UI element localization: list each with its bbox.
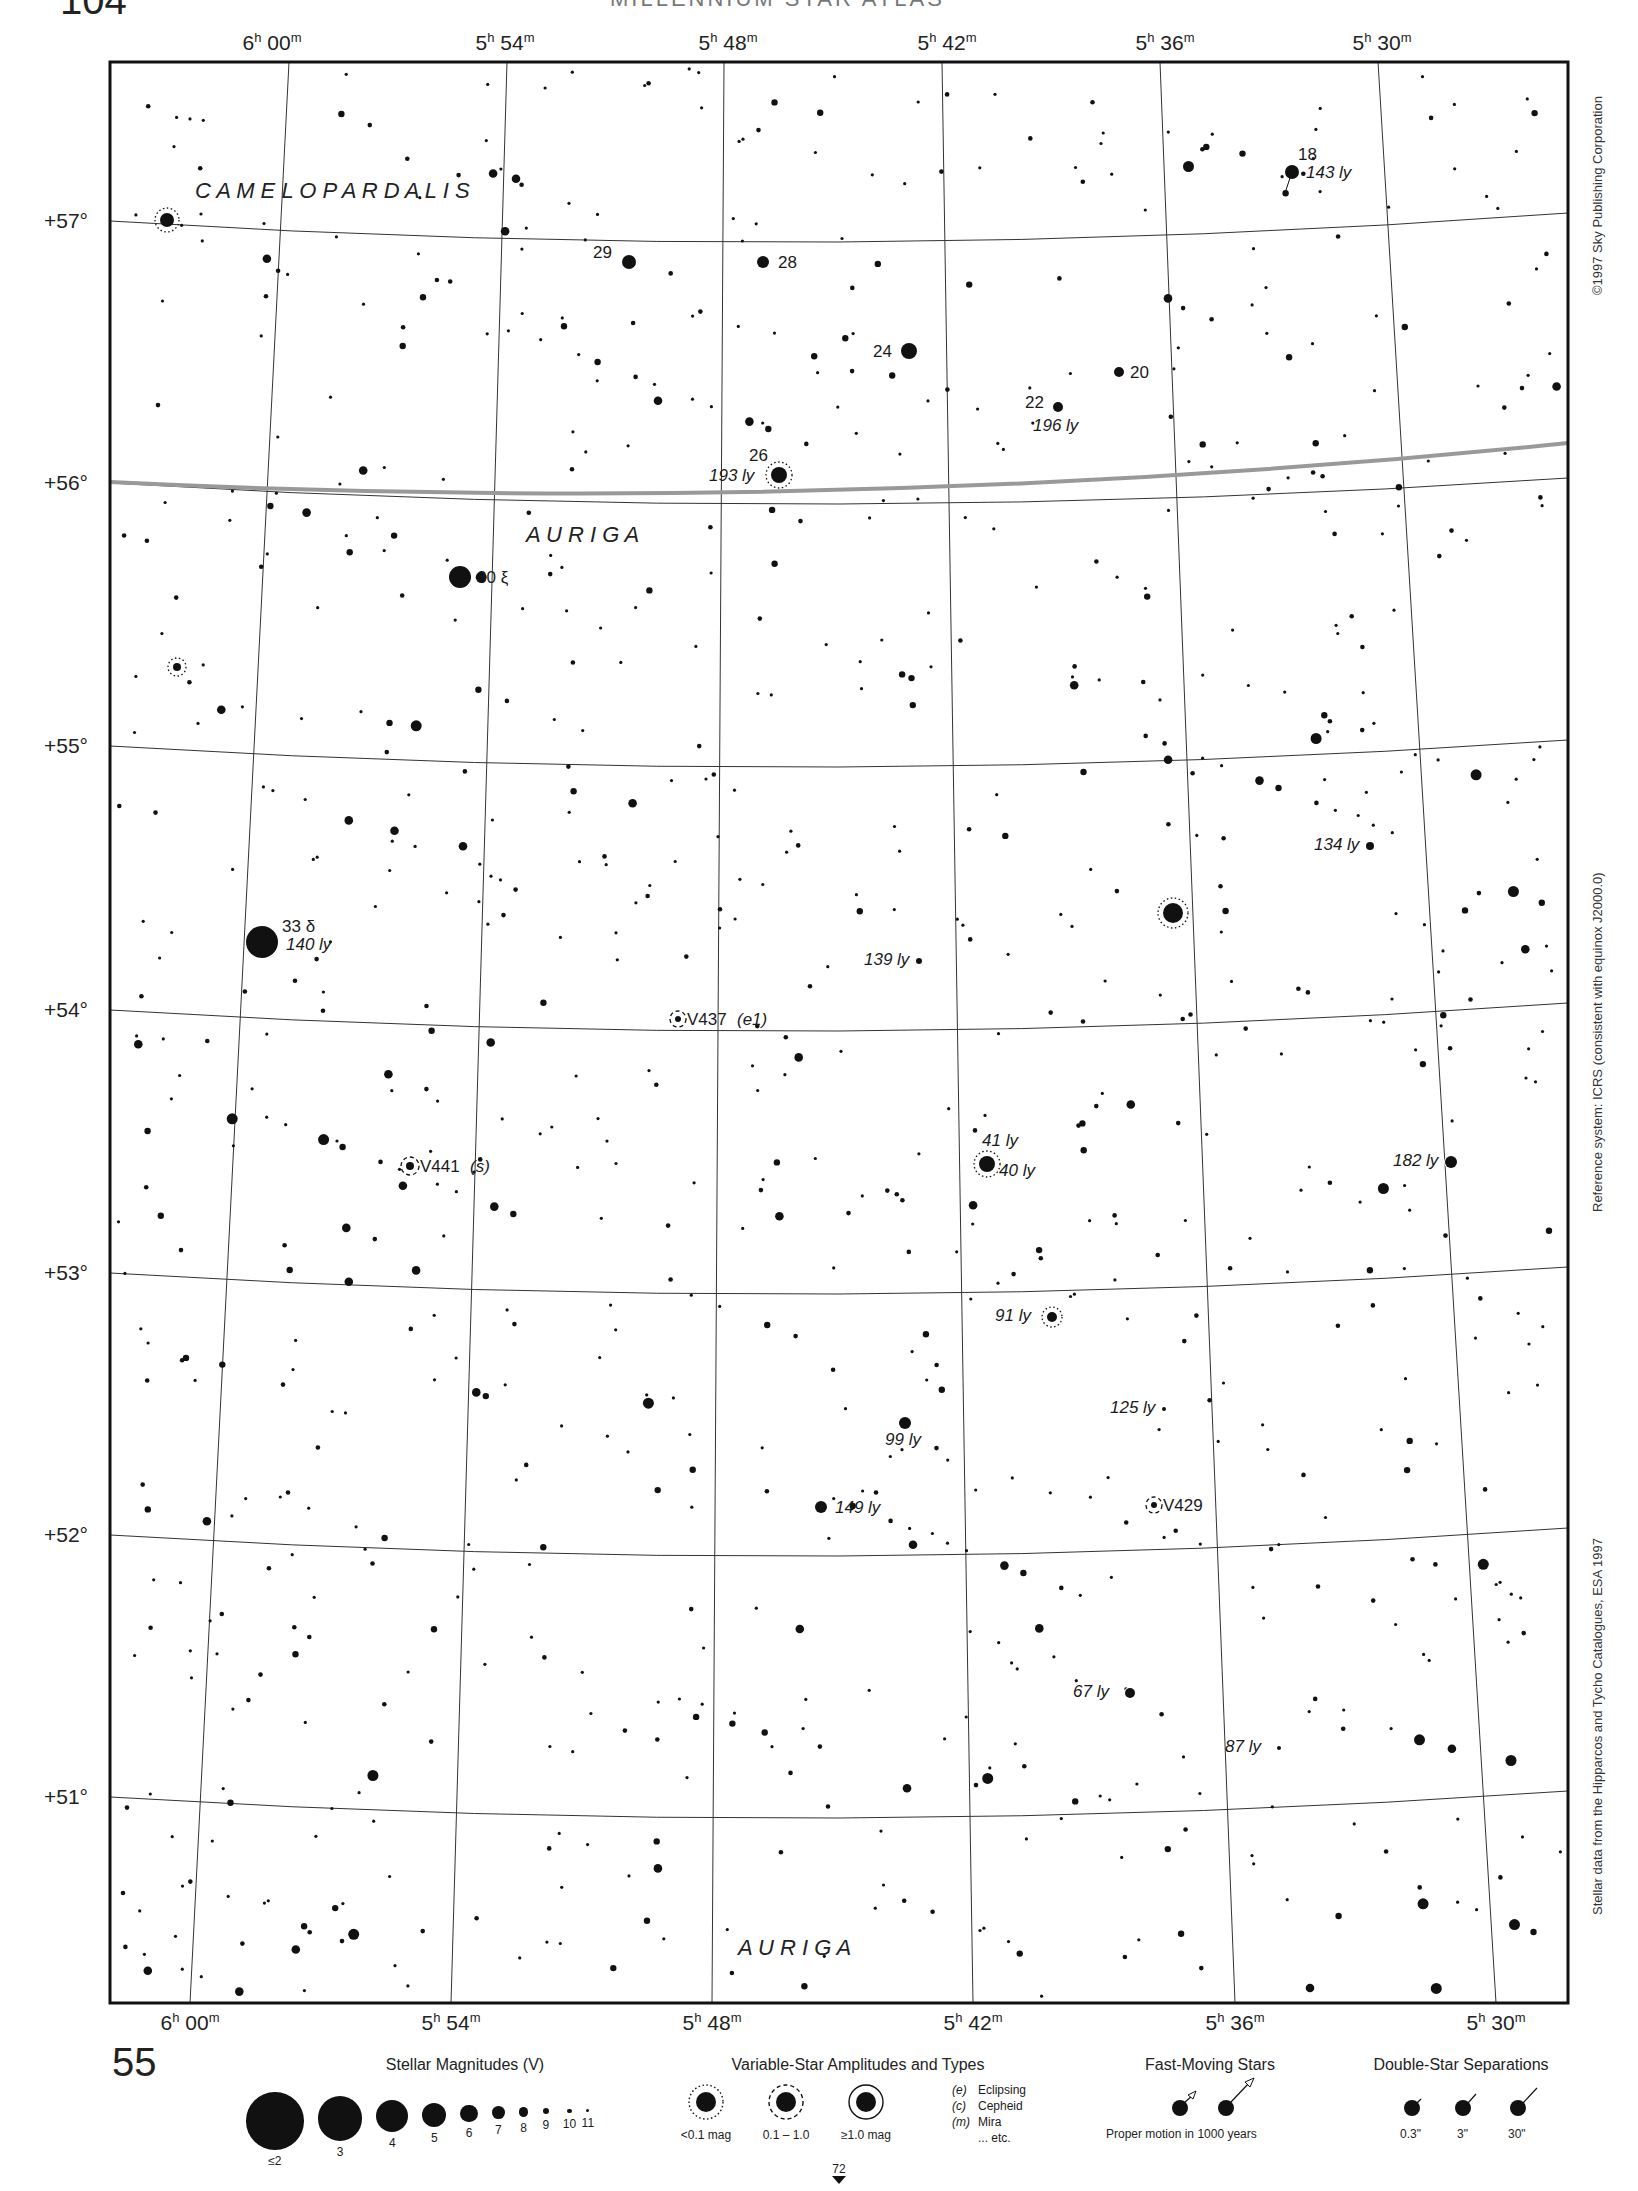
- star: [1053, 402, 1063, 412]
- distance-label: 193 ly: [709, 466, 756, 485]
- magnitude-swatch: 6: [460, 2105, 478, 2141]
- magnitude-label: 6: [466, 2126, 473, 2140]
- ra-label: 6h 00m: [161, 2010, 220, 2035]
- dec-label: +56°: [44, 471, 88, 495]
- type-etc: ... etc.: [952, 2130, 1026, 2146]
- star-label: 20: [1130, 363, 1149, 382]
- star-dot-icon: [318, 2096, 363, 2141]
- constellation-boundary: [110, 443, 1568, 493]
- dec-label: +54°: [44, 998, 88, 1022]
- star-dot-icon: [519, 2107, 529, 2117]
- star-dot-icon: [586, 2109, 589, 2112]
- data-source-note: Stellar data from the Hipparcos and Tych…: [1590, 1538, 1605, 1915]
- star-label: 22: [1025, 393, 1044, 412]
- distance-label: 67 ly: [1073, 1682, 1110, 1701]
- variable-amplitude-label: <0.1 mag: [681, 2128, 731, 2142]
- distance-label: 196 ly: [1033, 416, 1080, 435]
- dec-line: [110, 1003, 1568, 1031]
- star-chart: C A M E L O P A R D A L I SA U R I G AA …: [0, 0, 1638, 2191]
- legend-magnitudes: Stellar Magnitudes (V): [300, 2056, 630, 2074]
- star: [901, 343, 917, 359]
- dec-line: [110, 1791, 1568, 1818]
- star: [771, 467, 787, 483]
- variable-amplitude-swatch: 0.1 – 1.0: [756, 2082, 816, 2142]
- magnitude-label: 7: [495, 2123, 502, 2137]
- fast-moving-caption: Proper motion in 1000 years: [1106, 2127, 1257, 2141]
- star: [916, 958, 922, 964]
- star: [1162, 1407, 1166, 1411]
- magnitude-swatch: 5: [422, 2103, 446, 2145]
- magnitude-swatch: 8: [519, 2107, 529, 2135]
- dec-label: +51°: [44, 1785, 88, 1809]
- magnitude-label: ≤2: [268, 2154, 281, 2168]
- dec-label: +57°: [44, 209, 88, 233]
- reference-system-note: Reference system: ICRS (consistent with …: [1590, 872, 1605, 1212]
- ra-label: 5h 30m: [1467, 2010, 1526, 2035]
- star-label: 28: [778, 253, 797, 272]
- variable-types: (e)Eclipsing (c)Cepheid (m)Mira ... etc.: [952, 2082, 1026, 2146]
- legend-variables-title: Variable-Star Amplitudes and Types: [688, 2056, 1028, 2074]
- distance-label: 182 ly: [1393, 1151, 1440, 1170]
- star-label: 29: [593, 243, 612, 262]
- legend-variables: Variable-Star Amplitudes and Types: [688, 2056, 1028, 2074]
- star: [622, 255, 636, 269]
- ra-line: [1378, 62, 1496, 2003]
- distance-label: 91 ly: [995, 1306, 1032, 1325]
- dec-line: [110, 1528, 1568, 1556]
- magnitude-swatch: 3: [318, 2096, 363, 2159]
- star-dot-icon: [460, 2105, 478, 2123]
- dec-label: +55°: [44, 734, 88, 758]
- down-arrow-icon: [832, 2176, 846, 2184]
- star: [1151, 1502, 1157, 1508]
- legend-magnitudes-title: Stellar Magnitudes (V): [300, 2056, 630, 2074]
- dec-line: [110, 1267, 1568, 1294]
- star: [757, 256, 769, 268]
- star-dot-icon: [422, 2103, 446, 2127]
- star-dot-icon: [492, 2106, 505, 2119]
- distance-label: 139 ly: [864, 950, 911, 969]
- magnitude-label: 8: [520, 2121, 527, 2135]
- star-label: 30 ξ: [477, 568, 509, 587]
- magnitude-label: 4: [389, 2136, 396, 2150]
- next-chart-link[interactable]: 72: [826, 2162, 852, 2184]
- distance-label: 134 ly: [1314, 835, 1361, 854]
- star-label: 24: [873, 342, 892, 361]
- ra-label: 5h 36m: [1206, 2010, 1265, 2035]
- star: [1125, 1688, 1135, 1698]
- distance-label: 143 ly: [1306, 163, 1353, 182]
- chart-number: 55: [112, 2040, 157, 2085]
- distance-label: 99 ly: [885, 1430, 922, 1449]
- star: [449, 566, 471, 588]
- variable-star-icon: [846, 2082, 886, 2122]
- type-eclipsing: (e)Eclipsing: [952, 2082, 1026, 2098]
- variable-star-icon: [766, 2082, 806, 2122]
- dec-label: +52°: [44, 1523, 88, 1547]
- variable-star-icon: [686, 2082, 726, 2122]
- star: [246, 926, 278, 958]
- star-dot-icon: [567, 2109, 572, 2114]
- star-label: 18: [1298, 145, 1317, 164]
- magnitude-swatch: ≤2: [246, 2092, 304, 2168]
- ra-label: 5h 54m: [476, 30, 535, 55]
- double-sep-2: 30": [1508, 2127, 1526, 2141]
- star-dot-icon: [543, 2108, 549, 2114]
- star-label: V429: [1163, 1496, 1203, 1515]
- variable-type-label: (e1): [737, 1010, 767, 1029]
- distance-label: 125 ly: [1110, 1398, 1157, 1417]
- background-stars: [117, 67, 1562, 1997]
- star-label: V441: [420, 1157, 460, 1176]
- distance-label: 41 ly: [982, 1131, 1019, 1150]
- ra-label: 5h 30m: [1353, 30, 1412, 55]
- star: [1277, 1746, 1281, 1750]
- magnitude-swatch: 11: [582, 2109, 594, 2130]
- coordinate-grid: C A M E L O P A R D A L I SA U R I G AA …: [110, 62, 1568, 2003]
- copyright-note: ©1997 Sky Publishing Corporation: [1590, 96, 1605, 295]
- magnitude-swatch: 9: [542, 2108, 549, 2132]
- star: [1047, 1312, 1057, 1322]
- ra-label: 5h 42m: [944, 2010, 1003, 2035]
- magnitude-label: 10: [563, 2117, 576, 2131]
- magnitude-swatch: 4: [376, 2100, 408, 2150]
- labeled-stars: 18143 ly2928242022196 ly26193 ly30 ξ33 δ…: [155, 145, 1458, 1756]
- ra-label: 5h 48m: [683, 2010, 742, 2035]
- magnitude-swatch: 7: [492, 2106, 505, 2137]
